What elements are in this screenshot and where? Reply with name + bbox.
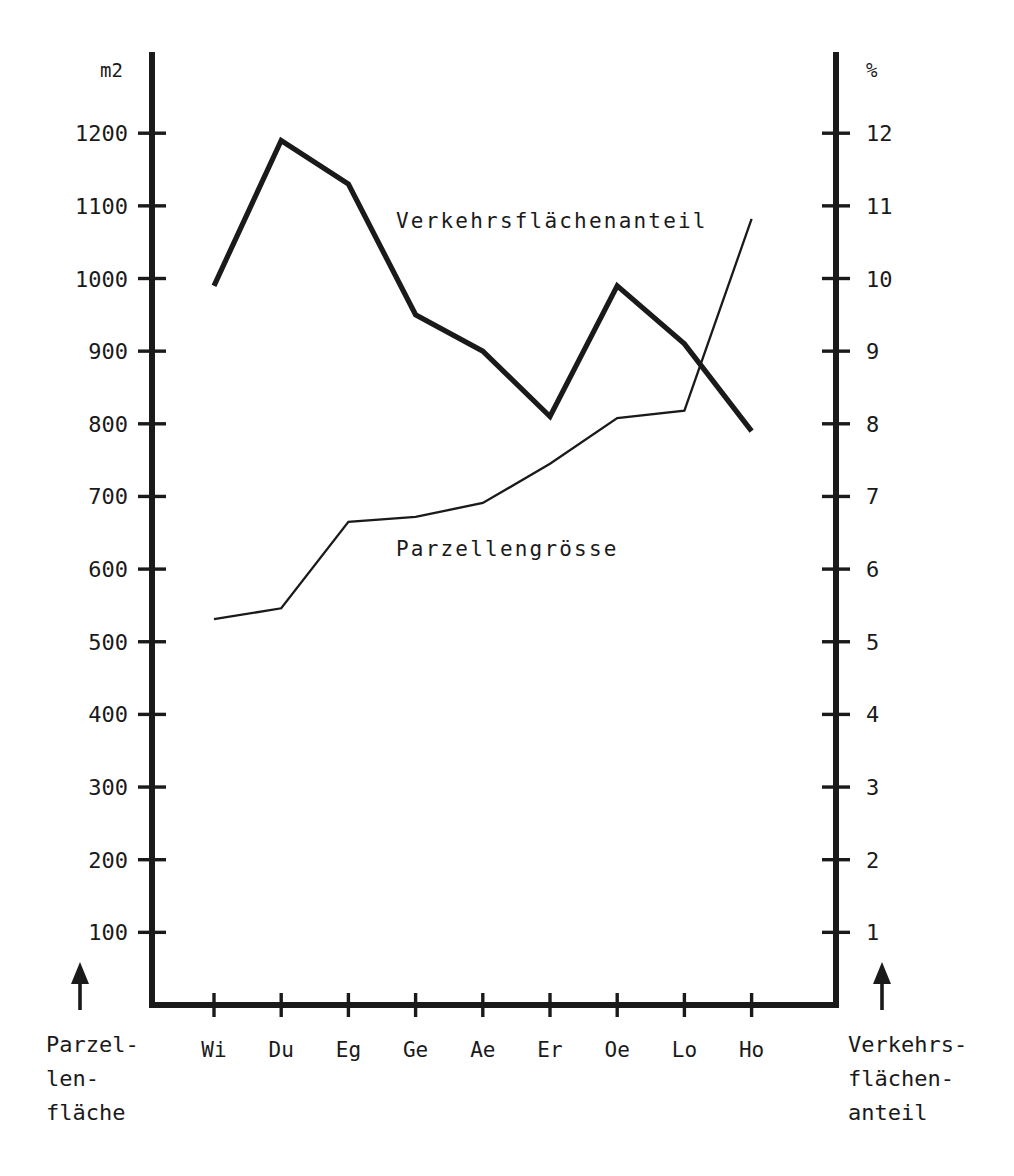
x-axis-category-label-oe: Oe	[605, 1038, 630, 1062]
left-axis-tick-label: 1100	[75, 194, 128, 219]
left-axis: 100200300400500600700800900100011001200 …	[75, 55, 166, 1005]
annotation-parzellengroesse: Parzellengrösse	[396, 537, 619, 561]
right-corner-label-group: Verkehrs- flächen- anteil	[848, 962, 967, 1125]
left-axis-tick-label: 700	[88, 484, 128, 509]
right-axis-tick-label: 2	[866, 848, 879, 873]
left-axis-tick-label: 300	[88, 775, 128, 800]
x-axis-category-label-du: Du	[269, 1038, 294, 1062]
left-axis-tick-label: 600	[88, 557, 128, 582]
right-axis-tick-label: 5	[866, 630, 879, 655]
right-axis-tick-label: 6	[866, 557, 879, 582]
left-corner-label-line1: Parzel-	[46, 1032, 139, 1057]
right-axis-tick-label: 3	[866, 775, 879, 800]
left-axis-tick-label: 100	[88, 920, 128, 945]
series-annotations: Verkehrsflächenanteil Parzellengrösse	[396, 209, 708, 561]
arrow-up-icon-right	[873, 962, 891, 1010]
x-axis: WiDuEgGeAeErOeLoHo	[152, 993, 836, 1062]
left-axis-tick-label: 800	[88, 412, 128, 437]
right-corner-label-line3: anteil	[848, 1100, 927, 1125]
right-axis-tick-label: 11	[866, 194, 893, 219]
series-line-verkehrsflaechenanteil	[214, 141, 752, 432]
chart-canvas: 100200300400500600700800900100011001200 …	[0, 0, 1014, 1176]
x-axis-category-labels: WiDuEgGeAeErOeLoHo	[201, 1038, 764, 1062]
left-axis-tick-label: 1000	[75, 267, 128, 292]
arrow-up-icon-left	[71, 962, 89, 1010]
x-axis-category-label-ho: Ho	[739, 1038, 764, 1062]
left-corner-label-line2: len-	[46, 1066, 99, 1091]
right-axis: 123456789101112 %	[822, 55, 893, 1005]
right-axis-tick-label: 4	[866, 702, 879, 727]
left-axis-tick-label: 1200	[75, 121, 128, 146]
right-corner-label-line1: Verkehrs-	[848, 1032, 967, 1057]
x-axis-category-label-lo: Lo	[672, 1038, 697, 1062]
right-axis-tick-label: 9	[866, 339, 879, 364]
x-axis-category-label-ae: Ae	[470, 1038, 495, 1062]
x-axis-category-label-eg: Eg	[336, 1038, 361, 1062]
right-corner-label-line2: flächen-	[848, 1066, 954, 1091]
left-axis-tick-label: 400	[88, 702, 128, 727]
left-corner-label-group: Parzel- len- fläche	[46, 962, 139, 1125]
right-axis-tick-label: 8	[866, 412, 879, 437]
chart-container: 100200300400500600700800900100011001200 …	[0, 0, 1014, 1176]
right-axis-unit: %	[866, 59, 878, 81]
right-axis-tick-label: 10	[866, 267, 893, 292]
left-axis-tick-label: 200	[88, 848, 128, 873]
left-axis-tick-label: 900	[88, 339, 128, 364]
right-axis-tick-label: 12	[866, 121, 893, 146]
x-axis-category-label-er: Er	[537, 1038, 562, 1062]
x-axis-category-label-ge: Ge	[403, 1038, 428, 1062]
left-corner-label-line3: fläche	[46, 1100, 125, 1125]
right-axis-tick-labels: 123456789101112	[866, 121, 893, 945]
x-axis-category-label-wi: Wi	[201, 1038, 226, 1062]
left-axis-tick-labels: 100200300400500600700800900100011001200	[75, 121, 128, 945]
left-axis-tick-label: 500	[88, 630, 128, 655]
right-axis-tick-label: 7	[866, 484, 879, 509]
annotation-verkehrsflaechenanteil: Verkehrsflächenanteil	[396, 209, 708, 233]
left-axis-unit: m2	[100, 59, 123, 81]
right-axis-tick-label: 1	[866, 920, 879, 945]
